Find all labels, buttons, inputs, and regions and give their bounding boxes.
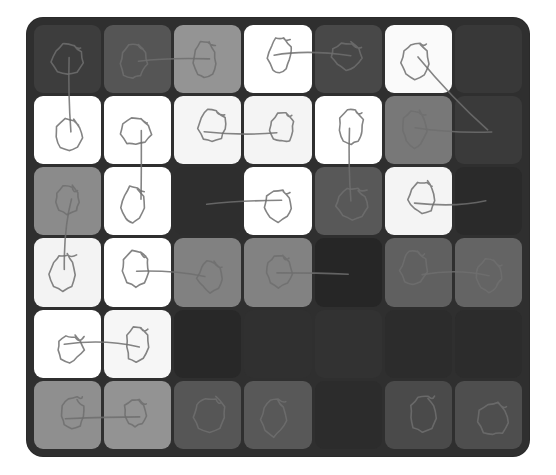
heatmap-cell[interactable] [315, 381, 382, 449]
heatmap-cell[interactable] [174, 167, 241, 235]
heatmap-cell[interactable] [244, 25, 311, 93]
heatmap-cell[interactable] [174, 238, 241, 306]
heatmap-cell[interactable] [244, 310, 311, 378]
heatmap-cell[interactable] [104, 310, 171, 378]
heatmap-cell[interactable] [174, 25, 241, 93]
heatmap-cell[interactable] [34, 167, 101, 235]
heatmap-cell[interactable] [455, 310, 522, 378]
heatmap-cell[interactable] [385, 381, 452, 449]
heatmap-cell[interactable] [104, 167, 171, 235]
heatmap-cell[interactable] [455, 167, 522, 235]
screenshot-stage [0, 0, 556, 475]
heatmap-cell[interactable] [104, 381, 171, 449]
heatmap-cell[interactable] [34, 381, 101, 449]
heatmap-cell[interactable] [34, 96, 101, 164]
heatmap-cell[interactable] [315, 167, 382, 235]
heatmap-cell[interactable] [244, 96, 311, 164]
heatmap-cell[interactable] [315, 238, 382, 306]
heatmap-cell[interactable] [34, 25, 101, 93]
heatmap-cell[interactable] [174, 381, 241, 449]
heatmap-cell[interactable] [104, 96, 171, 164]
heatmap-cell[interactable] [104, 25, 171, 93]
heatmap-cell[interactable] [385, 96, 452, 164]
heatmap-cell[interactable] [385, 238, 452, 306]
heatmap-cell[interactable] [315, 25, 382, 93]
heatmap-cell[interactable] [455, 238, 522, 306]
heatmap-cell[interactable] [385, 25, 452, 93]
heatmap-cell[interactable] [455, 381, 522, 449]
heatmap-cell[interactable] [455, 25, 522, 93]
heatmap-cell[interactable] [244, 381, 311, 449]
heatmap-grid [34, 25, 522, 449]
heatmap-cell[interactable] [34, 310, 101, 378]
heatmap-cell[interactable] [104, 238, 171, 306]
heatmap-cell[interactable] [385, 167, 452, 235]
grid-heatmap-board [27, 18, 529, 456]
heatmap-cell[interactable] [174, 310, 241, 378]
heatmap-cell[interactable] [455, 96, 522, 164]
heatmap-cell[interactable] [315, 96, 382, 164]
heatmap-cell[interactable] [315, 310, 382, 378]
heatmap-cell[interactable] [174, 96, 241, 164]
heatmap-cell[interactable] [34, 238, 101, 306]
heatmap-cell[interactable] [244, 238, 311, 306]
heatmap-cell[interactable] [385, 310, 452, 378]
heatmap-cell[interactable] [244, 167, 311, 235]
